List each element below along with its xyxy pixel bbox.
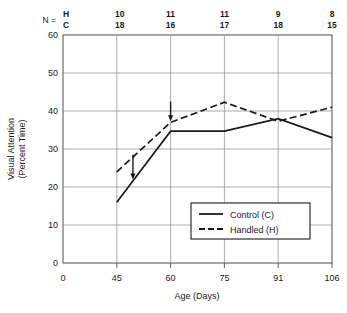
sample-size-H-45: 10 [115, 9, 125, 19]
sample-size-C-106: 15 [327, 20, 337, 30]
legend-label-handled: Handled (H) [230, 225, 279, 235]
legend-label-control: Control (C) [230, 210, 274, 220]
sample-size-C-91: 18 [273, 20, 283, 30]
y-tick-label-20: 20 [48, 182, 58, 192]
y-tick-label-30: 30 [48, 144, 58, 154]
sample-size-H-75: 11 [220, 9, 229, 19]
sample-size-table: N =HC101111981816171815 [43, 9, 337, 30]
y-tick-label-10: 10 [48, 220, 58, 230]
sample-size-H-106: 8 [330, 9, 335, 19]
x-tick-label-45: 45 [112, 273, 122, 283]
x-axis-ticks: 045607591106 [60, 263, 339, 283]
sample-size-H-91: 9 [276, 9, 281, 19]
x-axis-title: Age (Days) [174, 291, 219, 301]
y-axis-title: Visual Attention (Percent Time) [6, 118, 27, 180]
sample-size-prefix: N = [43, 15, 57, 25]
y-tick-label-0: 0 [53, 258, 58, 268]
sample-size-C-75: 17 [220, 20, 230, 30]
visual-attention-line-chart: 045607591106 0102030405060 N =HC10111198… [0, 0, 347, 313]
x-tick-label-91: 91 [273, 273, 283, 283]
sample-size-row-label-H: H [63, 9, 69, 19]
sample-size-row-label-C: C [63, 20, 69, 30]
y-axis-title-line2: (Percent Time) [17, 119, 27, 178]
y-tick-label-50: 50 [48, 68, 58, 78]
x-tick-label-0: 0 [60, 273, 65, 283]
x-tick-label-75: 75 [219, 273, 229, 283]
y-tick-label-40: 40 [48, 106, 58, 116]
y-axis-ticks: 0102030405060 [48, 30, 58, 268]
y-axis-title-line1: Visual Attention [6, 118, 16, 180]
legend[interactable]: Control (C) Handled (H) [191, 203, 310, 239]
chart-figure: 045607591106 0102030405060 N =HC10111198… [0, 0, 347, 313]
sample-size-C-45: 18 [115, 20, 125, 30]
x-tick-label-60: 60 [166, 273, 176, 283]
sample-size-H-60: 11 [166, 9, 175, 19]
sample-size-C-60: 16 [166, 20, 176, 30]
x-tick-label-106: 106 [324, 273, 339, 283]
y-tick-label-60: 60 [48, 30, 58, 40]
